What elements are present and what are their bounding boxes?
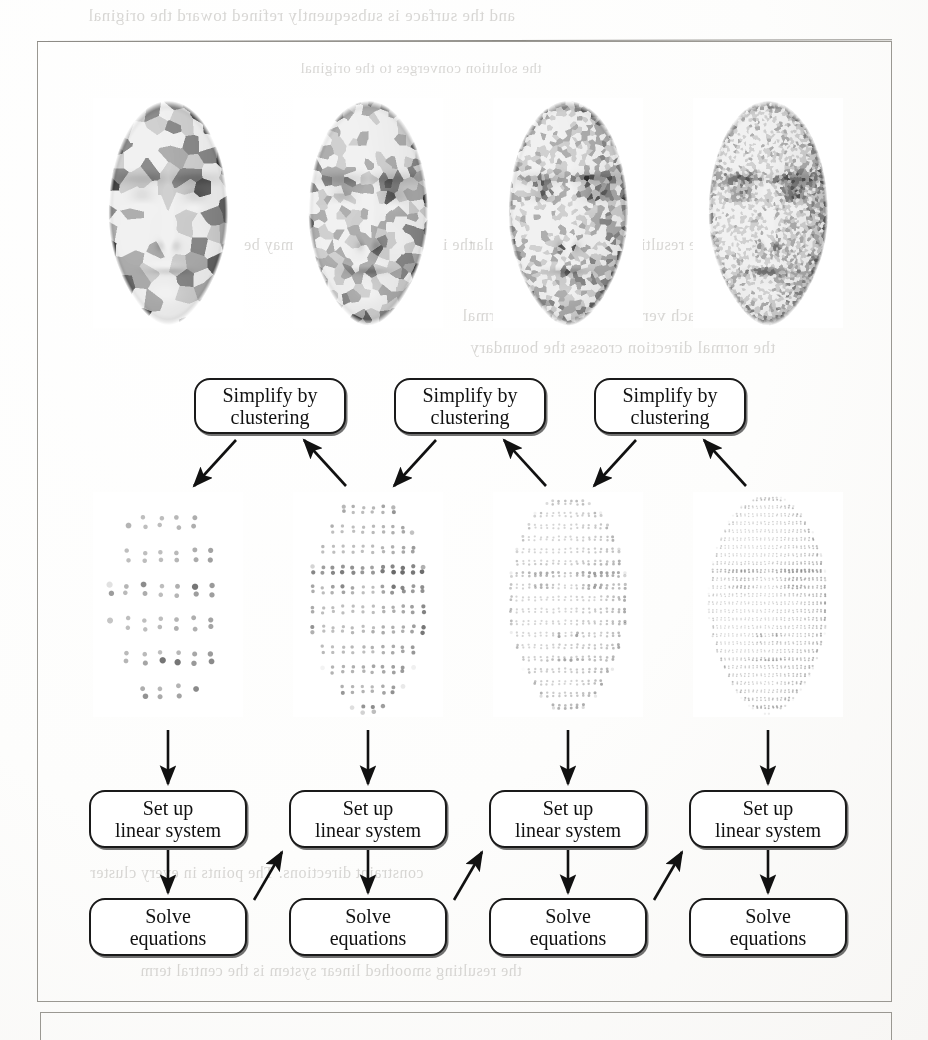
set-up-linear-system-box-line1: Set up — [543, 797, 594, 819]
solve-equations-box-line1: Solve — [545, 905, 591, 927]
solve-equations-box[interactable]: Solveequations — [489, 898, 647, 956]
solve-equations-box-line1: Solve — [145, 905, 191, 927]
set-up-linear-system-box-line1: Set up — [343, 797, 394, 819]
solve-equations-box[interactable]: Solveequations — [689, 898, 847, 956]
simplify-by-clustering-box[interactable]: Simplify byclustering — [394, 378, 546, 434]
simplify-by-clustering-box-line2: clustering — [431, 406, 510, 428]
set-up-linear-system-box-line2: linear system — [315, 819, 421, 841]
point-cloud-face — [93, 492, 243, 717]
set-up-linear-system-box-line2: linear system — [715, 819, 821, 841]
set-up-linear-system-box[interactable]: Set uplinear system — [89, 790, 247, 848]
shaded-face-mesh — [693, 98, 843, 328]
simplify-by-clustering-box-line2: clustering — [631, 406, 710, 428]
shaded-face-mesh — [293, 98, 443, 328]
point-cloud-face — [493, 492, 643, 717]
set-up-linear-system-box-line1: Set up — [143, 797, 194, 819]
simplify-by-clustering-box-line2: clustering — [231, 406, 310, 428]
simplify-by-clustering-box-line1: Simplify by — [222, 384, 317, 406]
solve-equations-box-line2: equations — [730, 927, 807, 949]
simplify-by-clustering-box[interactable]: Simplify byclustering — [594, 378, 746, 434]
solve-equations-box-line1: Solve — [745, 905, 791, 927]
caption-box-border — [40, 1012, 892, 1040]
point-cloud-face — [693, 492, 843, 717]
set-up-linear-system-box-line1: Set up — [743, 797, 794, 819]
set-up-linear-system-box[interactable]: Set uplinear system — [289, 790, 447, 848]
set-up-linear-system-box-line2: linear system — [115, 819, 221, 841]
shaded-face-mesh — [493, 98, 643, 328]
simplify-by-clustering-box-line1: Simplify by — [422, 384, 517, 406]
shaded-face-mesh — [93, 98, 243, 328]
point-cloud-face — [293, 492, 443, 717]
solve-equations-box-line2: equations — [330, 927, 407, 949]
solve-equations-box-line2: equations — [130, 927, 207, 949]
simplify-by-clustering-box[interactable]: Simplify byclustering — [194, 378, 346, 434]
solve-equations-box-line1: Solve — [345, 905, 391, 927]
solve-equations-box-line2: equations — [530, 927, 607, 949]
simplify-by-clustering-box-line1: Simplify by — [622, 384, 717, 406]
set-up-linear-system-box[interactable]: Set uplinear system — [689, 790, 847, 848]
solve-equations-box[interactable]: Solveequations — [89, 898, 247, 956]
set-up-linear-system-box-line2: linear system — [515, 819, 621, 841]
solve-equations-box[interactable]: Solveequations — [289, 898, 447, 956]
set-up-linear-system-box[interactable]: Set uplinear system — [489, 790, 647, 848]
